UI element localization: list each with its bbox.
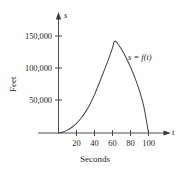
x-tick-label-80: 80: [121, 139, 141, 148]
x-tick-label-60: 60: [103, 139, 123, 148]
y-tick-label-50000: 50,000: [8, 96, 52, 105]
curve-annotation-label: s = f(t): [128, 53, 152, 62]
x-tick-label-100: 100: [139, 139, 159, 148]
y-axis-variable-name: s: [64, 11, 67, 20]
figure-container: 150,000 100,000 50,000 20 40 60 80 100 s…: [0, 0, 181, 174]
y-axis-title: Feet: [9, 77, 18, 93]
y-axis-arrow-icon: [56, 12, 61, 20]
y-tick-label-150000: 150,000: [8, 32, 52, 41]
x-axis-arrow-icon: [164, 130, 172, 135]
x-tick-label-40: 40: [85, 139, 105, 148]
y-tick-label-100000: 100,000: [8, 64, 52, 73]
x-axis-title: Seconds: [80, 155, 110, 164]
x-axis-variable-name: t: [172, 128, 174, 137]
x-tick-label-20: 20: [67, 139, 87, 148]
